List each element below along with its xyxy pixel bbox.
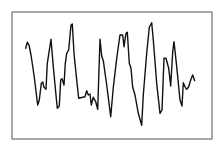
waveform-line: [26, 23, 195, 126]
waveform-chart: [0, 0, 216, 145]
chart-frame: [12, 12, 212, 139]
